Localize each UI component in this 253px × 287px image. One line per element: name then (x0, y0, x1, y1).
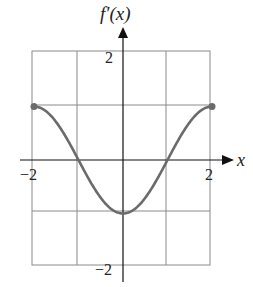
y-tick-max: 2 (105, 49, 113, 66)
endpoint-right (209, 103, 216, 110)
y-axis-label: f′(x) (100, 3, 131, 25)
x-tick-max: 2 (205, 166, 213, 183)
x-axis-arrow-icon (222, 155, 234, 165)
y-axis-arrow-icon (118, 27, 128, 38)
chart: f′(x) x −2 2 2 −2 (0, 0, 253, 287)
endpoint-left (31, 103, 38, 110)
x-tick-min: −2 (20, 166, 37, 183)
grid (32, 51, 210, 265)
axes (20, 38, 226, 282)
y-tick-min: −2 (95, 261, 112, 278)
x-axis-label: x (236, 150, 245, 170)
